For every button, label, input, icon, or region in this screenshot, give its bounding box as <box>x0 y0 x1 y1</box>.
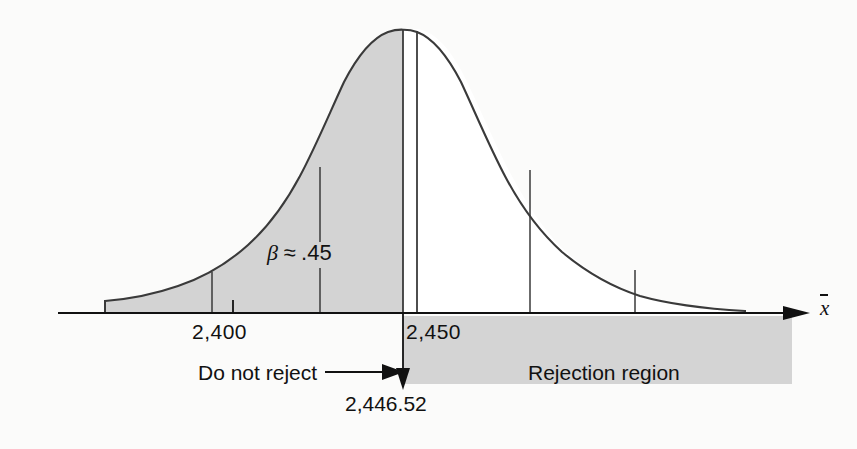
x-axis-arrowhead <box>783 306 810 320</box>
beta-annotation: β ≈ .45 <box>267 240 332 266</box>
x-tick-label-2450: 2,450 <box>406 320 461 344</box>
beta-value: .45 <box>301 240 332 265</box>
beta-shaded-area <box>105 30 403 312</box>
approx-symbol: ≈ <box>283 240 295 265</box>
critical-value-label: 2,446.52 <box>345 392 427 416</box>
x-tick-label-2400: 2,400 <box>192 320 247 344</box>
x-axis-variable-label: x <box>820 296 829 321</box>
rejection-region-label: Rejection region <box>528 361 680 385</box>
beta-symbol: β <box>267 240 278 265</box>
do-not-reject-label: Do not reject <box>198 361 317 385</box>
statistics-figure: 2,400 2,450 β ≈ .45 Do not reject Reject… <box>0 0 857 449</box>
normal-distribution-chart <box>0 0 857 449</box>
x-bar-symbol: x <box>820 296 829 321</box>
